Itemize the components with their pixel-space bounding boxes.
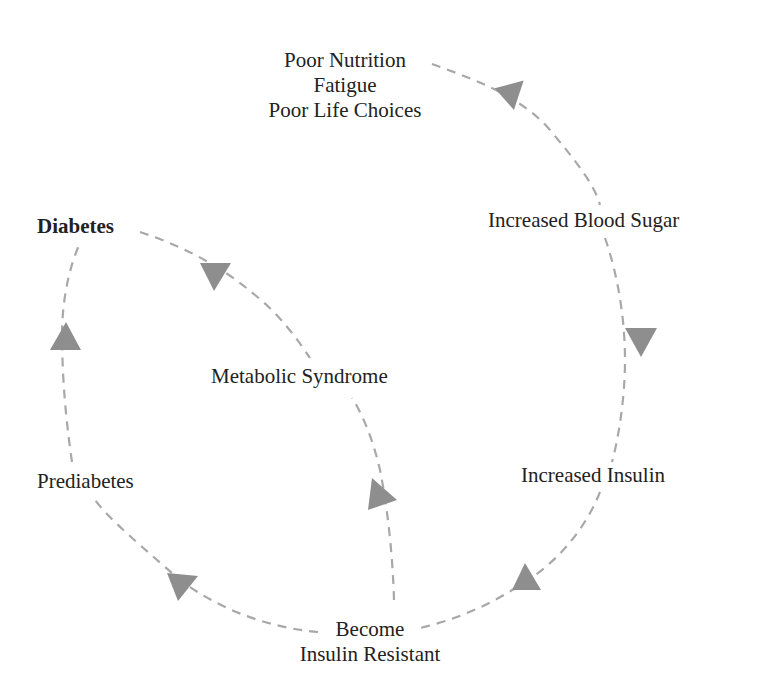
edge-blood-sugar-to-insulin bbox=[605, 238, 625, 462]
node-causes-line-2: Fatigue bbox=[245, 73, 445, 98]
node-prediabetes: Prediabetes bbox=[37, 469, 167, 494]
node-diabetes: Diabetes bbox=[37, 214, 147, 239]
node-resistant-line-1: Become bbox=[260, 617, 480, 642]
arrow-up-left-icon bbox=[167, 573, 198, 601]
node-causes-line-1: Poor Nutrition bbox=[245, 48, 445, 73]
edge-insulin-to-resistant bbox=[420, 492, 600, 628]
edge-resistant-to-prediabetes bbox=[95, 500, 318, 632]
node-causes: Poor Nutrition Fatigue Poor Life Choices bbox=[245, 48, 445, 123]
arrow-down-left-icon bbox=[512, 563, 541, 590]
node-increased-blood-sugar: Increased Blood Sugar bbox=[488, 208, 718, 233]
node-resistant-line-2: Insulin Resistant bbox=[260, 642, 480, 667]
node-become-insulin-resistant: Become Insulin Resistant bbox=[260, 617, 480, 667]
edge-diabetes-to-metabolic bbox=[140, 232, 310, 358]
node-increased-insulin: Increased Insulin bbox=[521, 463, 711, 488]
node-metabolic-syndrome: Metabolic Syndrome bbox=[211, 364, 441, 389]
arrow-up-icon bbox=[50, 322, 81, 350]
edge-prediabetes-to-diabetes bbox=[62, 243, 80, 462]
arrow-down-icon bbox=[625, 328, 657, 357]
arrow-down-right-icon bbox=[200, 263, 231, 291]
node-causes-line-3: Poor Life Choices bbox=[245, 98, 445, 123]
